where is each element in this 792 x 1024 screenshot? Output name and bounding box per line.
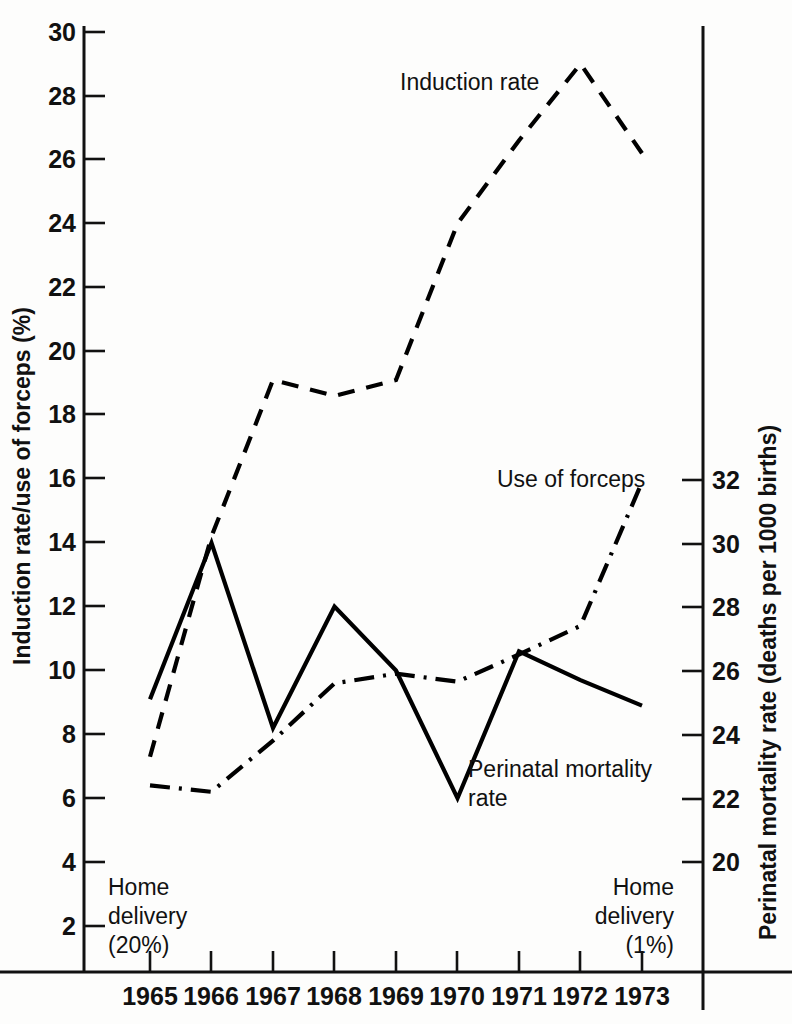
- note-home-delivery-left: Home delivery (20%): [108, 874, 188, 958]
- note-left-line3: (20%): [108, 932, 169, 958]
- right-tick-26: 26: [712, 657, 740, 685]
- series-induction-rate: [150, 64, 642, 757]
- x-tick-1968: 1968: [306, 982, 362, 1010]
- x-tick-1966: 1966: [183, 982, 239, 1010]
- line-chart: 30 28 26 24 22 20 18 16 14 12 10 8 6 4 2: [0, 0, 792, 1024]
- x-tick-1972: 1972: [552, 982, 608, 1010]
- right-axis-title: Perinatal mortality rate (deaths per 100…: [755, 425, 781, 940]
- annotation-perinatal-line1: Perinatal mortality: [468, 756, 653, 782]
- left-tick-22: 22: [48, 273, 76, 301]
- x-tick-1965: 1965: [122, 982, 178, 1010]
- left-axis-ticks: [84, 32, 105, 926]
- note-right-line3: (1%): [625, 932, 674, 958]
- left-tick-24: 24: [48, 209, 76, 237]
- x-axis-tick-labels: 1965 1966 1967 1968 1969 1970 1971 1972 …: [122, 982, 670, 1010]
- x-tick-1967: 1967: [245, 982, 301, 1010]
- right-axis-ticks: [682, 480, 703, 862]
- right-tick-32: 32: [712, 466, 740, 494]
- x-tick-1970: 1970: [429, 982, 485, 1010]
- annotation-induction-rate: Induction rate: [400, 69, 539, 95]
- series-use-of-forceps: [150, 482, 642, 792]
- note-right-line2: delivery: [595, 903, 675, 929]
- left-tick-16: 16: [48, 464, 76, 492]
- left-axis-title: Induction rate/use of forceps (%): [9, 307, 35, 665]
- left-tick-4: 4: [62, 848, 76, 876]
- left-tick-30: 30: [48, 18, 76, 46]
- x-tick-1971: 1971: [491, 982, 547, 1010]
- annotation-perinatal-line2: rate: [468, 785, 508, 811]
- left-axis-tick-labels: 30 28 26 24 22 20 18 16 14 12 10 8 6 4 2: [48, 18, 76, 940]
- x-axis-ticks: [150, 951, 642, 972]
- note-left-line2: delivery: [108, 903, 188, 929]
- left-tick-28: 28: [48, 82, 76, 110]
- right-tick-28: 28: [712, 593, 740, 621]
- note-home-delivery-right: Home delivery (1%): [595, 874, 675, 958]
- left-tick-2: 2: [62, 912, 76, 940]
- right-tick-22: 22: [712, 785, 740, 813]
- left-tick-26: 26: [48, 145, 76, 173]
- left-tick-10: 10: [48, 656, 76, 684]
- left-tick-6: 6: [62, 784, 76, 812]
- left-tick-14: 14: [48, 528, 76, 556]
- right-tick-24: 24: [712, 721, 740, 749]
- right-tick-30: 30: [712, 530, 740, 558]
- right-axis-tick-labels: 32 30 28 26 24 22 20: [712, 466, 740, 876]
- left-tick-8: 8: [62, 720, 76, 748]
- x-tick-1969: 1969: [368, 982, 424, 1010]
- right-tick-20: 20: [712, 848, 740, 876]
- x-tick-1973: 1973: [614, 982, 670, 1010]
- left-tick-18: 18: [48, 400, 76, 428]
- note-right-line1: Home: [613, 874, 674, 900]
- left-tick-20: 20: [48, 337, 76, 365]
- left-tick-12: 12: [48, 592, 76, 620]
- note-left-line1: Home: [108, 874, 169, 900]
- annotation-use-of-forceps: Use of forceps: [497, 466, 645, 492]
- figure-canvas: 30 28 26 24 22 20 18 16 14 12 10 8 6 4 2: [0, 0, 792, 1024]
